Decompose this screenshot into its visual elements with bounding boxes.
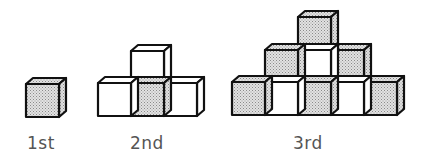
cube-shaded [232, 76, 272, 115]
figure-3rd [232, 11, 404, 115]
figure-label-1st: 1st [27, 133, 55, 153]
cube-shaded [26, 78, 66, 117]
figure-label-2nd: 2nd [130, 133, 164, 153]
figure-2nd [98, 45, 204, 116]
cube-pattern-diagram: 1st 2nd 3rd [0, 0, 422, 161]
diagram-canvas: 1st 2nd 3rd [0, 0, 422, 161]
figure-1st [26, 78, 66, 117]
cube-plain [98, 77, 138, 116]
figure-label-3rd: 3rd [293, 133, 323, 153]
